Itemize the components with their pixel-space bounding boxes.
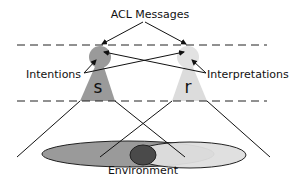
shared-context-ellipse	[130, 145, 156, 165]
interpretations-label: Interpretations	[207, 68, 289, 81]
agent-r: r	[172, 46, 207, 101]
agent-s-label: s	[94, 77, 103, 97]
acl-messages-label: ACL Messages	[111, 8, 190, 21]
agent-s: s	[80, 46, 115, 101]
environment-label: Environment	[108, 164, 179, 177]
intentions-label: Intentions	[26, 68, 81, 81]
acl-diagram: s r ACL Messages Intentions Interpretati…	[0, 0, 303, 183]
agent-r-label: r	[185, 77, 192, 97]
